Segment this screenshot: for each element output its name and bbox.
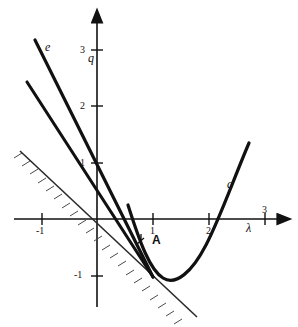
figure-canvas: q λ -1 1 2 3 3 2 1 -1 e a A [0, 0, 298, 327]
x-axis-variable-label: λ [246, 222, 251, 234]
point-A-label: A [152, 234, 161, 246]
y-tick-label-1: 1 [80, 158, 85, 168]
y-tick-label-3: 3 [80, 45, 85, 55]
x-tick-label--1: -1 [36, 226, 44, 236]
y-axis-variable-label: q [88, 52, 94, 64]
supporting-line-2 [27, 82, 153, 277]
constraint-boundary-hatched [14, 151, 197, 324]
x-tick-label-3: 3 [262, 205, 267, 215]
x-tick-label-2: 2 [206, 226, 211, 236]
y-tick-label-2: 2 [80, 101, 85, 111]
line-e-label: e [45, 41, 50, 53]
line-e [35, 40, 153, 277]
curve-a-label: a [227, 178, 233, 190]
y-tick-label--1: -1 [74, 270, 82, 280]
constraint-boundary-line [20, 151, 197, 317]
x-axis [14, 213, 278, 225]
